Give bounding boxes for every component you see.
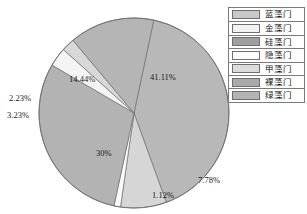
legend-label: 绿藻门 [265, 91, 292, 100]
slice-value-label-lanzaomen: 41.11% [150, 72, 176, 82]
chart-legend: 蓝藻门金藻门硅藻门隐藻门甲藻门裸藻门绿藻门 [228, 7, 305, 103]
slice-value-label-luozaomen: 2.23% [9, 93, 31, 103]
slice-value-label-lvzaomen: 14.44% [69, 74, 95, 84]
legend-swatch [232, 24, 260, 33]
legend-item[interactable]: 隐藻门 [229, 48, 304, 61]
slice-value-label-yinzaomen: 30% [96, 148, 112, 158]
legend-swatch [232, 91, 260, 100]
legend-item[interactable]: 裸藻门 [229, 75, 304, 88]
legend-item[interactable]: 硅藻门 [229, 35, 304, 48]
slice-value-label-guizaomen: 1.12% [152, 190, 174, 200]
legend-label: 硅藻门 [265, 38, 292, 47]
legend-item[interactable]: 蓝藻门 [229, 8, 304, 21]
legend-item[interactable]: 绿藻门 [229, 88, 304, 101]
legend-item[interactable]: 甲藻门 [229, 62, 304, 75]
legend-swatch [232, 78, 260, 87]
legend-swatch [232, 51, 260, 60]
slice-value-label-jiazaomen: 3.23% [7, 110, 29, 120]
legend-swatch [232, 10, 260, 19]
legend-label: 裸藻门 [265, 78, 292, 87]
legend-swatch [232, 37, 260, 46]
pie-chart-figure: 41.11% 7.78% 1.12% 30% 3.23% 2.23% 14.44… [0, 0, 307, 214]
legend-item[interactable]: 金藻门 [229, 21, 304, 34]
legend-label: 隐藻门 [265, 51, 292, 60]
legend-label: 金藻门 [265, 24, 292, 33]
legend-swatch [232, 64, 260, 73]
legend-label: 蓝藻门 [265, 10, 292, 19]
legend-label: 甲藻门 [265, 65, 292, 74]
slice-value-label-jinzaomen: 7.78% [198, 175, 220, 185]
